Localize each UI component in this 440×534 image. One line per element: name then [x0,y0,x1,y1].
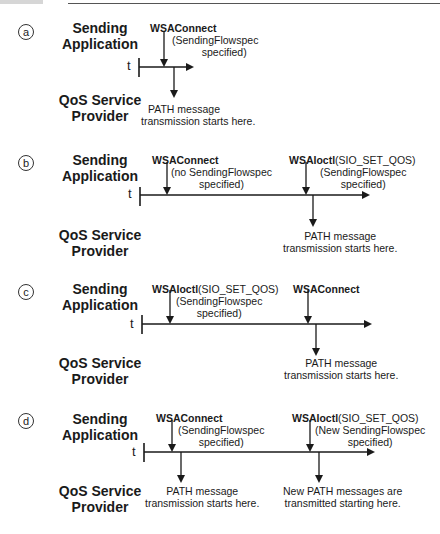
note-line: transmission starts here. [284,369,398,381]
call-name: WSAIoctl [152,283,198,295]
sending-application-label: Sending Application [45,411,155,443]
role-line: QoS Service [40,227,160,243]
provider-event-note: PATH message transmission starts here. [283,230,397,254]
call-name: WSAIoctl [292,412,338,424]
role-line: Sending [45,20,155,36]
role-line: Sending [45,281,155,297]
note-line: New PATH messages are [283,485,402,497]
role-line: Application [45,427,155,443]
sending-application-label: Sending Application [45,20,155,52]
app-event-note: (SendingFlowspec specified) [176,295,262,319]
app-event-call: WSAIoctl(SIO_SET_QOS) [292,412,419,424]
provider-event-note: New PATH messages are transmitted starti… [283,485,402,509]
note-line: specified) [172,46,258,58]
provider-event-note-2: transmission starts here. [141,115,255,127]
qos-provider-label: QoS Service Provider [40,483,160,515]
panel-letter-a: a [18,24,34,40]
call-name: WSAConnect [150,22,217,34]
note-line: specified) [320,178,406,190]
note-line: PATH message [283,230,397,242]
app-event-note: (SendingFlowspec specified) [172,34,258,58]
role-line: QoS Service [40,483,160,499]
provider-event-note: PATH message transmission starts here. [284,357,398,381]
call-name: WSAConnect [156,412,223,424]
note-line: transmitted starting here. [283,497,402,509]
call-args: (SIO_SET_QOS) [335,154,416,166]
note-line: PATH message [145,485,259,497]
role-line: Application [45,168,155,184]
role-line: Sending [45,411,155,427]
app-event-call: WSAIoctl(SIO_SET_QOS) [152,283,279,295]
note-line: transmission starts here. [145,497,259,509]
app-event-call: WSAConnect [150,22,217,34]
call-args: (SIO_SET_QOS) [338,412,419,424]
app-event-call: WSAConnect [152,154,219,166]
note-line: (SendingFlowspec [176,295,262,307]
role-line: Provider [40,499,160,515]
note-line: specified) [315,436,425,448]
qos-provider-label: QoS Service Provider [40,355,160,387]
note-line: specified) [178,436,264,448]
qos-provider-label: QoS Service Provider [40,227,160,259]
app-event-note: (SendingFlowspec specified) [320,166,406,190]
app-event-note: (SendingFlowspec specified) [178,424,264,448]
app-event-note: (New SendingFlowspec specified) [315,424,425,448]
provider-event-note: PATH message [140,103,210,115]
time-axis-label: t [127,58,131,73]
role-line: Sending [45,152,155,168]
role-line: QoS Service [40,355,160,371]
call-name: WSAIoctl [289,154,335,166]
app-event-call: WSAConnect [156,412,223,424]
panel-letter-c: c [18,284,34,300]
time-axis-label: t [132,444,136,459]
note-line: (SendingFlowspec [320,166,406,178]
call-name: WSAConnect [293,283,360,295]
time-axis-label: t [130,316,134,331]
sending-application-label: Sending Application [45,152,155,184]
panel-letter-d: d [18,413,34,429]
time-axis-label: t [128,186,132,201]
app-event-call: WSAIoctl(SIO_SET_QOS) [289,154,416,166]
timeline-graphics [0,0,440,534]
role-line: Application [45,297,155,313]
note-line: PATH message [148,103,210,115]
note-line: (SendingFlowspec [172,34,258,46]
note-line: transmission starts here. [283,242,397,254]
note-line: (New SendingFlowspec [315,424,425,436]
role-line: Provider [40,243,160,259]
app-event-note: (no SendingFlowspec specified) [171,166,272,190]
app-event-call: WSAConnect [293,283,360,295]
provider-event-note: PATH message transmission starts here. [145,485,259,509]
call-name: WSAConnect [152,154,219,166]
note-line: specified) [176,307,262,319]
sending-application-label: Sending Application [45,281,155,313]
role-line: Provider [40,371,160,387]
note-line: (SendingFlowspec [178,424,264,436]
call-args: (SIO_SET_QOS) [198,283,279,295]
note-line: specified) [171,178,272,190]
note-line: (no SendingFlowspec [171,166,272,178]
panel-letter-b: b [18,155,34,171]
note-line: PATH message [284,357,398,369]
role-line: Application [45,36,155,52]
